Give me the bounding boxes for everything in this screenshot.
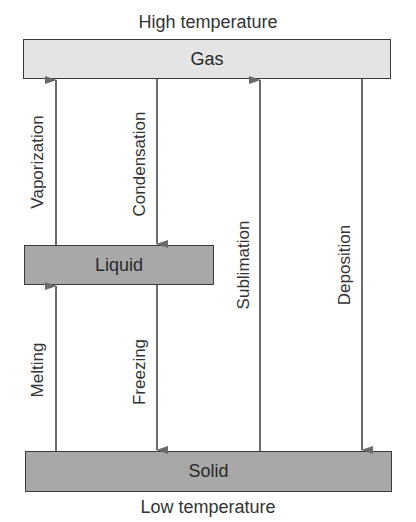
freezing-label: Freezing [130, 339, 150, 405]
condensation-label: Condensation [130, 112, 150, 217]
deposition-label: Deposition [335, 225, 355, 305]
sublimation-label: Sublimation [234, 221, 254, 310]
melting-label: Melting [28, 343, 48, 398]
vaporization-label: Vaporization [28, 115, 48, 208]
